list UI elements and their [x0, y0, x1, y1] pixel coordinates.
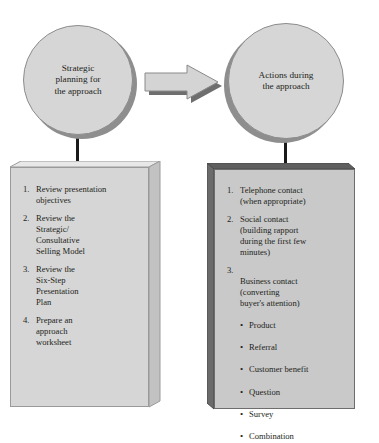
list-item-number: 4. [23, 315, 36, 348]
list-item-text: Review presentation objectives [36, 184, 140, 206]
node-strategic-planning-label: Strategic planning for the approach [42, 63, 113, 97]
bullet-item: • Referral [240, 342, 348, 353]
list-item-number: 3. [23, 264, 36, 308]
box-left-face: 1. Review presentation objectives 2. Rev… [10, 167, 149, 407]
list-item: 2. Review the Strategic/ Consultative Se… [23, 213, 140, 257]
bullet-icon: • [240, 342, 249, 353]
list-item-text: Prepare an approach worksheet [36, 315, 140, 348]
bullet-item: • Survey [240, 409, 348, 420]
bullet-icon: • [240, 364, 249, 375]
box-right-face: 1. Telephone contact (when appropriate) … [214, 169, 355, 409]
bullet-item: • Question [240, 387, 348, 398]
bullet-item: • Product [240, 320, 348, 331]
bullet-item: • Customer benefit [240, 364, 348, 375]
bullet-item: • Combination [240, 431, 348, 442]
list-item-text: Social contact (building rapport during … [240, 214, 348, 258]
list-item: 1. Telephone contact (when appropriate) [227, 185, 348, 207]
list-item-number: 1. [227, 185, 240, 207]
list-item-number: 1. [23, 184, 36, 206]
list-item-text: Review the Six-Step Presentation Plan [36, 264, 140, 308]
bullet-label: Combination [249, 431, 348, 442]
list-item-text: Telephone contact (when appropriate) [240, 185, 348, 207]
right-arrow-icon [142, 64, 224, 106]
bullet-label: Product [249, 320, 348, 331]
bullet-icon: • [240, 409, 249, 420]
approach-actions-list: 1. Telephone contact (when appropriate) … [215, 170, 354, 408]
bullet-icon: • [240, 431, 249, 442]
strategic-planning-list: 1. Review presentation objectives 2. Rev… [11, 168, 148, 406]
list-item-body: Business contact (converting buyer's att… [240, 265, 348, 443]
list-item: 2. Social contact (building rapport duri… [227, 214, 348, 258]
node-actions-during-approach[interactable]: Actions during the approach [228, 23, 344, 139]
bullet-icon: • [240, 387, 249, 398]
bullet-label: Question [249, 387, 348, 398]
list-item-number: 2. [23, 213, 36, 257]
bullet-icon: • [240, 320, 249, 331]
list-item: 4. Prepare an approach worksheet [23, 315, 140, 348]
list-item-number: 3. [227, 265, 240, 443]
bullet-label: Customer benefit [249, 364, 348, 375]
list-item-text: Business contact (converting buyer's att… [240, 276, 300, 308]
box-strategic-planning-steps[interactable]: 1. Review presentation objectives 2. Rev… [10, 161, 162, 409]
box-approach-actions[interactable]: 1. Telephone contact (when appropriate) … [207, 163, 359, 411]
bullet-label: Survey [249, 409, 348, 420]
list-item-number: 2. [227, 214, 240, 258]
node-actions-during-approach-label: Actions during the approach [247, 70, 326, 92]
list-item: 3. Review the Six-Step Presentation Plan [23, 264, 140, 308]
list-item: 1. Review presentation objectives [23, 184, 140, 206]
list-item: 3. Business contact (converting buyer's … [227, 265, 348, 443]
bullet-label: Referral [249, 342, 348, 353]
list-item-text: Review the Strategic/ Consultative Selli… [36, 213, 140, 257]
business-contact-bullets: • Product • Referral • Customer benefit [240, 309, 348, 443]
node-strategic-planning[interactable]: Strategic planning for the approach [23, 25, 133, 135]
